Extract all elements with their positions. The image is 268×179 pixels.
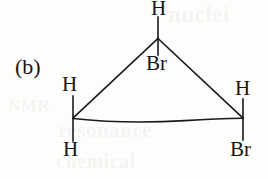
bond-apex-to-right-vertex <box>158 39 243 119</box>
molecule-bond-drawing <box>0 0 268 179</box>
atom-label-center-bromine: Br <box>146 53 167 74</box>
atom-label-top-hydrogen: H <box>151 0 166 19</box>
atom-label-bottom-left-hydrogen: H <box>63 139 78 160</box>
atom-label-bottom-right-bromine: Br <box>230 139 251 160</box>
bond-base-wavy <box>73 118 243 122</box>
atom-label-left-hydrogen: H <box>62 74 77 95</box>
figure-panel: nuclei resonance chemical NMR (b) H Br H… <box>0 0 268 179</box>
atom-label-right-hydrogen: H <box>235 78 250 99</box>
panel-label-b: (b) <box>15 56 41 78</box>
